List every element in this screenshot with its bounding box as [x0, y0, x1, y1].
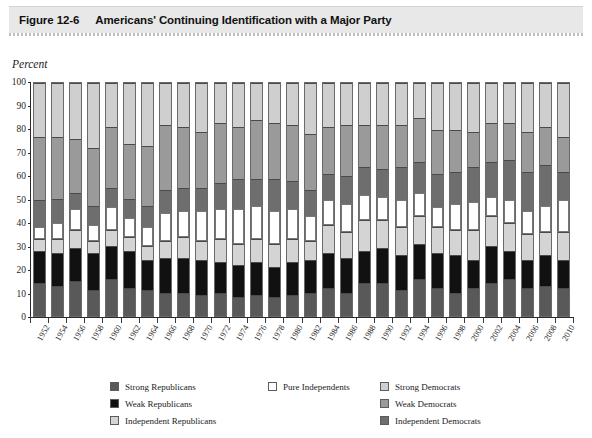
bar-segment-strong-democrats [432, 83, 443, 130]
x-label-1966: 1966 [161, 323, 178, 343]
legend-item-weak-republicans[interactable]: Weak Republicans [110, 395, 216, 412]
legend-item-weak-democrats[interactable]: Weak Democrats [380, 395, 481, 412]
bar-segment-weak-republicans [486, 246, 497, 283]
bar-segment-pure-independents [160, 213, 171, 241]
bar-segment-pure-independents [269, 211, 280, 244]
bar-segment-weak-republicans [305, 260, 316, 293]
legend-column-2: Pure Independents [268, 378, 350, 395]
bar-segment-strong-republicans [450, 293, 461, 316]
x-label-1952: 1952 [35, 323, 52, 343]
legend-item-pure-independents[interactable]: Pure Independents [268, 378, 350, 395]
bar-segment-independent-republicans [251, 239, 262, 262]
bar-segment-weak-republicans [233, 265, 244, 298]
x-label-1982: 1982 [306, 323, 323, 343]
bar-segment-strong-republicans [88, 290, 99, 316]
bar-segment-independent-democrats [396, 167, 407, 200]
bar-segment-strong-republicans [124, 288, 135, 316]
bar-segment-strong-democrats [70, 83, 81, 139]
bar-segment-independent-democrats [377, 169, 388, 197]
bar-segment-weak-republicans [558, 260, 569, 288]
legend-swatch-independent-republicans-icon [110, 416, 119, 425]
bar-segment-pure-independents [106, 207, 117, 230]
bar-2008 [539, 82, 552, 317]
bar-segment-weak-democrats [432, 130, 443, 174]
bar-segment-weak-republicans [269, 267, 280, 297]
x-label-1962: 1962 [125, 323, 142, 343]
bar-segment-strong-democrats [359, 83, 370, 125]
bar-segment-independent-republicans [287, 239, 298, 262]
y-axis-tick-marks [0, 82, 33, 317]
legend-label: Pure Independents [283, 382, 350, 392]
legend-item-independent-republicans[interactable]: Independent Republicans [110, 412, 216, 429]
x-label-1972: 1972 [216, 323, 233, 343]
bar-segment-strong-democrats [52, 83, 63, 137]
bar-segment-strong-democrats [269, 83, 280, 123]
bar-segment-independent-republicans [504, 223, 515, 251]
bar-segment-weak-republicans [432, 253, 443, 288]
bar-segment-independent-republicans [396, 227, 407, 255]
bar-segment-strong-republicans [52, 286, 63, 316]
bar-segment-pure-independents [414, 193, 425, 216]
bar-segment-weak-republicans [178, 258, 189, 293]
legend-item-strong-republicans[interactable]: Strong Republicans [110, 378, 216, 395]
bar-segment-weak-democrats [468, 132, 479, 167]
bar-segment-weak-republicans [450, 255, 461, 292]
bar-segment-pure-independents [178, 211, 189, 237]
bar-segment-strong-republicans [178, 293, 189, 316]
bar-segment-strong-republicans [414, 279, 425, 316]
bar-segment-weak-democrats [160, 125, 171, 190]
x-label-1958: 1958 [89, 323, 106, 343]
bar-segment-strong-democrats [305, 83, 316, 134]
bar-segment-strong-republicans [160, 293, 171, 316]
bar-segment-independent-republicans [233, 244, 244, 265]
bar-segment-strong-democrats [251, 83, 262, 120]
bar-1952 [33, 82, 46, 317]
legend-swatch-weak-republicans-icon [110, 399, 119, 408]
legend-item-strong-democrats[interactable]: Strong Democrats [380, 378, 481, 395]
bar-segment-weak-democrats [540, 127, 551, 164]
legend-column-1: Strong RepublicansWeak RepublicansIndepe… [110, 378, 216, 429]
bar-segment-independent-democrats [88, 206, 99, 225]
bar-segment-weak-republicans [52, 253, 63, 286]
bar-segment-weak-democrats [558, 137, 569, 172]
bar-segment-strong-democrats [396, 83, 407, 125]
bar-segment-weak-democrats [287, 125, 298, 181]
bar-segment-weak-democrats [124, 144, 135, 200]
legend-label: Strong Republicans [125, 382, 196, 392]
bar-segment-strong-republicans [287, 295, 298, 316]
x-label-2010: 2010 [559, 323, 576, 343]
bar-1964 [141, 82, 154, 317]
bar-segment-pure-independents [432, 207, 443, 228]
bar-segment-pure-independents [522, 211, 533, 234]
legend-item-independent-democrats[interactable]: Independent Democrats [380, 412, 481, 429]
bar-segment-independent-democrats [486, 162, 497, 197]
bar-segment-strong-democrats [233, 83, 244, 127]
bar-segment-weak-republicans [251, 262, 262, 295]
bar-segment-strong-democrats [160, 83, 171, 125]
bar-segment-independent-democrats [269, 179, 280, 212]
bar-segment-weak-democrats [215, 123, 226, 184]
bar-segment-weak-democrats [251, 120, 262, 178]
bar-segment-strong-democrats [450, 83, 461, 130]
bar-segment-strong-republicans [34, 283, 45, 316]
bar-segment-independent-republicans [88, 241, 99, 253]
bar-1986 [340, 82, 353, 317]
bar-segment-strong-democrats [486, 83, 497, 123]
bar-segment-independent-republicans [540, 232, 551, 255]
bar-segment-independent-democrats [160, 190, 171, 213]
bar-segment-weak-republicans [88, 253, 99, 290]
x-label-2006: 2006 [523, 323, 540, 343]
bar-segment-pure-independents [341, 204, 352, 232]
bar-segment-weak-republicans [287, 262, 298, 295]
bar-segment-pure-independents [305, 216, 316, 242]
bar-segment-pure-independents [287, 209, 298, 239]
x-label-1964: 1964 [143, 323, 160, 343]
bar-segment-independent-republicans [124, 237, 135, 251]
bar-segment-strong-republicans [522, 288, 533, 316]
bar-1988 [358, 82, 371, 317]
bar-segment-pure-independents [196, 211, 207, 241]
bar-segment-strong-republicans [468, 288, 479, 316]
bar-segment-independent-democrats [414, 162, 425, 192]
x-axis-tick-labels: 1952195419561958196019621964196619681970… [30, 323, 574, 368]
bar-1966 [159, 82, 172, 317]
